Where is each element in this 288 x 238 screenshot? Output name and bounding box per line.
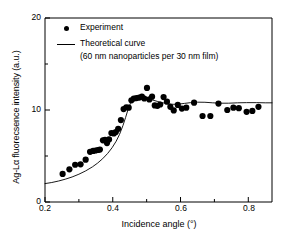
legend-experiment-marker-icon <box>64 26 69 31</box>
data-point <box>171 107 177 113</box>
y-tick-label-20: 20 <box>19 12 41 22</box>
data-point <box>215 100 221 106</box>
data-point <box>97 146 103 152</box>
data-point <box>236 105 242 111</box>
legend-experiment-label: Experiment <box>80 22 123 32</box>
data-point <box>243 109 249 115</box>
x-tick-label-3: 0.8 <box>234 203 264 213</box>
data-point <box>149 94 155 100</box>
data-point <box>157 101 163 107</box>
experiment-data-points <box>60 85 262 177</box>
data-point <box>183 105 189 111</box>
data-point <box>144 85 150 91</box>
data-point <box>66 166 72 172</box>
data-point <box>72 162 78 168</box>
data-point <box>207 113 213 119</box>
x-tick-label-2: 0.6 <box>166 203 196 213</box>
data-point <box>191 100 197 106</box>
data-point <box>118 117 124 123</box>
y-tick-label-10: 10 <box>19 104 41 114</box>
data-point <box>106 136 112 142</box>
data-point <box>230 105 236 111</box>
data-point <box>83 157 89 163</box>
figure-container: Ag-Lα fluorecsence intensity (a.u.) Inci… <box>0 0 288 238</box>
tick-marks <box>45 18 248 202</box>
legend-theory-sublabel: (60 nm nanoparticles per 30 nm film) <box>80 51 218 61</box>
x-tick-label-1: 0.4 <box>98 203 128 213</box>
data-point <box>60 171 66 177</box>
y-tick-label-0: 0 <box>19 196 41 206</box>
data-point <box>249 108 255 114</box>
data-point <box>224 107 230 113</box>
legend-theory-label: Theoretical curve <box>80 38 145 48</box>
data-point <box>255 104 261 110</box>
data-point <box>115 126 121 132</box>
legend-theory-line-icon <box>57 44 75 45</box>
data-point <box>126 105 132 111</box>
x-axis-label: Incidence angle (°) <box>45 219 273 229</box>
data-point <box>199 113 205 119</box>
y-axis-label: Ag-Lα fluorecsence intensity (a.u.) <box>11 27 21 207</box>
data-point <box>77 161 83 167</box>
data-point <box>164 99 170 105</box>
